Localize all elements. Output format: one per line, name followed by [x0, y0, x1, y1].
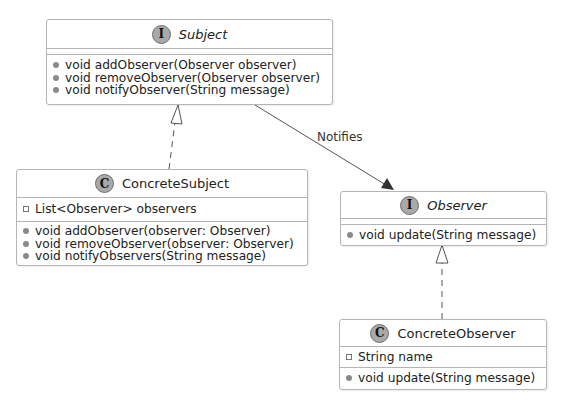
fields-compartment: List<Observer> observers	[17, 198, 307, 222]
class-name: ConcreteSubject	[122, 176, 229, 191]
method-row: void addObserver(observer: Observer)	[23, 225, 301, 238]
methods-compartment: void addObserver(Observer observer) void…	[47, 55, 332, 100]
public-visibility-icon	[23, 241, 29, 247]
public-visibility-icon	[53, 87, 59, 93]
class-name: Subject	[179, 27, 228, 42]
private-visibility-icon	[346, 354, 352, 360]
private-visibility-icon	[23, 206, 29, 212]
public-visibility-icon	[347, 232, 353, 238]
methods-compartment: void update(String message)	[341, 225, 546, 245]
class-header: C ConcreteSubject	[17, 170, 307, 198]
class-header: I Observer	[341, 192, 546, 219]
realization-concrete-observer-to-observer	[436, 245, 448, 319]
method-row: void addObserver(Observer observer)	[53, 59, 326, 72]
public-visibility-icon	[53, 62, 59, 68]
method-row: void notifyObserver(String message)	[53, 84, 326, 97]
public-visibility-icon	[23, 253, 29, 259]
fields-compartment: String name	[340, 347, 546, 368]
class-stereotype-icon: C	[95, 174, 114, 193]
interface-stereotype-icon: I	[152, 25, 171, 44]
public-visibility-icon	[53, 75, 59, 81]
public-visibility-icon	[23, 228, 29, 234]
uml-diagram-canvas: Notifies I Subject void addObserver(Obse…	[0, 0, 565, 408]
class-name: ConcreteObserver	[397, 326, 515, 341]
public-visibility-icon	[346, 375, 352, 381]
class-box-concrete-subject[interactable]: C ConcreteSubject List<Observer> observe…	[16, 169, 308, 266]
class-header: C ConcreteObserver	[340, 320, 546, 347]
methods-compartment: void update(String message)	[340, 368, 546, 388]
methods-compartment: void addObserver(observer: Observer) voi…	[17, 222, 307, 266]
association-label-notifies: Notifies	[317, 130, 363, 144]
class-stereotype-icon: C	[370, 324, 389, 343]
class-header: I Subject	[47, 20, 332, 49]
realization-concrete-subject-to-subject	[169, 105, 182, 169]
interface-stereotype-icon: I	[400, 196, 419, 215]
class-box-concrete-observer[interactable]: C ConcreteObserver String name void upda…	[339, 319, 547, 390]
class-box-observer[interactable]: I Observer void update(String message)	[340, 191, 547, 246]
method-row: void notifyObservers(String message)	[23, 250, 301, 263]
method-row: void update(String message)	[346, 372, 540, 385]
field-row: List<Observer> observers	[23, 203, 301, 216]
method-row: void update(String message)	[347, 229, 540, 242]
field-row: String name	[346, 351, 540, 364]
class-name: Observer	[427, 198, 487, 213]
class-box-subject[interactable]: I Subject void addObserver(Observer obse…	[46, 19, 333, 105]
